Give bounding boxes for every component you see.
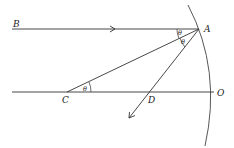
label-O: O	[217, 88, 225, 98]
mirror-diagram: B A C D O θ θ θ	[0, 0, 234, 148]
angle-arc-c	[89, 82, 91, 92]
label-theta-top: θ	[178, 29, 182, 37]
label-A: A	[203, 24, 211, 34]
reflected-ray	[129, 29, 199, 118]
label-theta-c: θ	[83, 85, 87, 93]
diagram-canvas: B A C D O θ θ θ	[0, 0, 234, 148]
label-C: C	[62, 95, 69, 105]
label-theta-mid: θ	[181, 38, 185, 46]
label-B: B	[12, 19, 20, 29]
label-D: D	[147, 95, 155, 105]
normal-line-CA	[67, 29, 199, 92]
